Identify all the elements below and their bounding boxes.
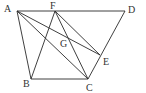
segment-fb: [31, 11, 55, 79]
geometry-diagram: A F D G E B C: [0, 0, 146, 93]
point-label-b: B: [23, 78, 30, 89]
point-label-f: F: [50, 0, 56, 11]
point-label-e: E: [103, 56, 109, 67]
point-label-a: A: [4, 3, 12, 14]
point-label-g: G: [60, 38, 67, 49]
segment-ab: [17, 11, 31, 79]
point-label-d: D: [128, 4, 135, 15]
segment-ac: [17, 11, 88, 79]
segment-cd: [88, 11, 125, 79]
point-label-c: C: [86, 82, 93, 93]
segments-group: [17, 11, 125, 79]
